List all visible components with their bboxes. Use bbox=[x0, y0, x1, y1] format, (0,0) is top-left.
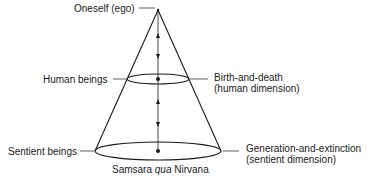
birth-and-death-line1: Birth-and-death bbox=[214, 72, 300, 83]
generation-and-extinction-label: Generation-and-extinction (sentient dime… bbox=[246, 143, 361, 165]
human-beings-label: Human beings bbox=[43, 74, 107, 85]
sentient-beings-label: Sentient beings bbox=[8, 146, 77, 157]
arrow-down-icon bbox=[156, 54, 160, 59]
sentient-center-dot bbox=[156, 149, 160, 153]
caption-italic: qua bbox=[155, 164, 172, 175]
birth-and-death-line2: (human dimension) bbox=[214, 83, 300, 94]
human-center-dot bbox=[156, 77, 160, 81]
caption-before: Samsara bbox=[112, 164, 155, 175]
caption-after: Nirvana bbox=[171, 164, 208, 175]
generation-and-extinction-line1: Generation-and-extinction bbox=[246, 143, 361, 154]
apex-point bbox=[157, 9, 159, 11]
generation-and-extinction-line2: (sentient dimension) bbox=[246, 154, 361, 165]
cone-right-edge bbox=[158, 10, 221, 151]
arrow-up-icon bbox=[156, 99, 160, 104]
arrow-up-icon bbox=[156, 33, 160, 38]
apex-label: Oneself (ego) bbox=[74, 3, 135, 14]
caption: Samsara qua Nirvana bbox=[112, 164, 209, 175]
birth-and-death-label: Birth-and-death (human dimension) bbox=[214, 72, 300, 94]
arrow-down-icon bbox=[156, 122, 160, 127]
